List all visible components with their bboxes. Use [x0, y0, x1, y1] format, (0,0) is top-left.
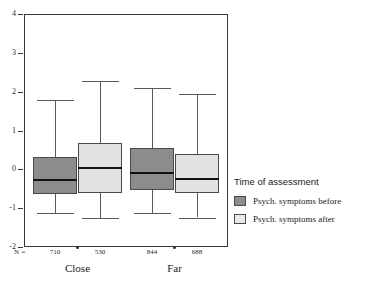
median-line — [175, 178, 219, 180]
legend-label-before: Psych. symptoms before — [253, 196, 341, 206]
median-line — [33, 179, 77, 181]
n-value-label: 688 — [180, 249, 214, 256]
x-axis-tick — [76, 246, 79, 249]
x-axis-category-label: Far — [145, 263, 205, 274]
whisker-cap-upper — [82, 81, 119, 82]
whisker-cap-lower — [179, 218, 216, 219]
legend-swatch-before — [234, 196, 246, 206]
legend-swatch-after — [234, 214, 246, 224]
n-value-label: 844 — [135, 249, 169, 256]
median-line — [130, 172, 174, 174]
box-iqr-rect — [130, 148, 174, 190]
legend-label-after: Psych. symptoms after — [253, 214, 335, 224]
legend-item-after[interactable]: Psych. symptoms after — [234, 214, 389, 224]
n-value-label: 530 — [83, 249, 117, 256]
whisker-cap-upper — [37, 100, 74, 101]
legend-item-before[interactable]: Psych. symptoms before — [234, 196, 389, 206]
n-prefix-label: N = — [14, 249, 26, 256]
box-iqr-rect — [33, 157, 77, 194]
whisker-cap-upper — [179, 94, 216, 95]
whisker-cap-lower — [82, 218, 119, 219]
x-axis-tick — [173, 246, 176, 249]
boxplot-figure: 43210-1-2 710530844688CloseFar N = Time … — [0, 0, 389, 282]
whisker-cap-lower — [37, 213, 74, 214]
legend: Time of assessment Psych. symptoms befor… — [234, 176, 389, 232]
box-iqr-rect — [175, 154, 219, 193]
box-series-layer — [0, 0, 389, 282]
median-line — [78, 167, 122, 169]
n-value-label: 710 — [38, 249, 72, 256]
legend-title: Time of assessment — [234, 176, 389, 187]
clipped-caption — [24, 276, 224, 282]
x-axis-category-label: Close — [48, 263, 108, 274]
whisker-cap-upper — [134, 88, 171, 89]
whisker-cap-lower — [134, 213, 171, 214]
